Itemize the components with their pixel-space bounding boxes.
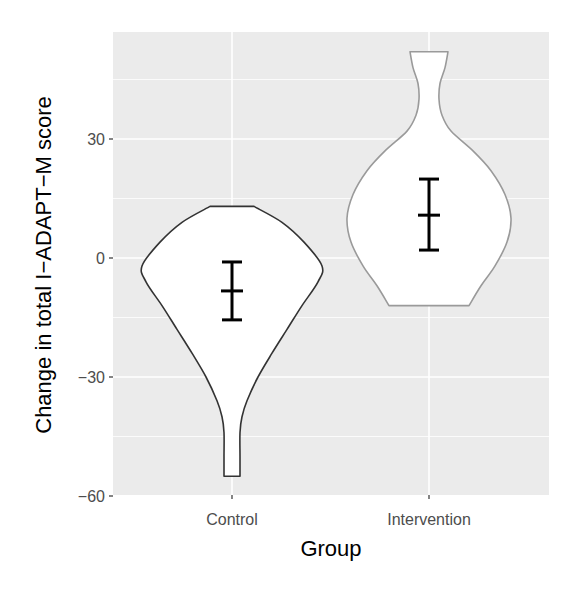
violin-chart: −60−30030 ControlIntervention Group Chan… <box>0 0 572 589</box>
x-tick-label-intervention: Intervention <box>387 511 471 528</box>
y-tick-label: −30 <box>78 369 105 386</box>
y-axis: −60−30030 <box>78 131 113 505</box>
x-tick-label-control: Control <box>206 511 258 528</box>
y-tick-label: 0 <box>96 250 105 267</box>
y-axis-title: Change in total I−ADAPT−M score <box>31 96 56 434</box>
y-tick-label: −60 <box>78 488 105 505</box>
x-axis-title: Group <box>300 536 361 561</box>
x-axis: ControlIntervention <box>206 495 471 528</box>
y-tick-label: 30 <box>87 131 105 148</box>
